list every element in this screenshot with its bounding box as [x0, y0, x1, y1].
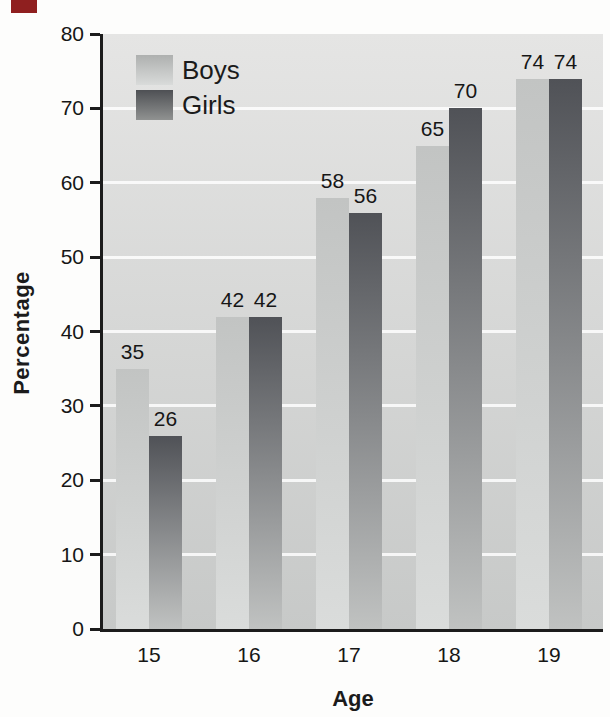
girls-bar-value-age-19: 74 — [545, 50, 586, 74]
legend-label-boys: Boys — [182, 55, 240, 86]
girls-bar-value-age-18: 70 — [445, 79, 486, 103]
girls-bar-value-age-16: 42 — [245, 288, 286, 312]
y-tick-label-40: 40 — [42, 320, 84, 344]
x-tick-label-19: 19 — [525, 643, 573, 667]
x-axis-title: Age — [332, 686, 374, 711]
girls-bar-age-18 — [449, 108, 482, 629]
y-tick-mark-50 — [90, 256, 100, 259]
y-tick-label-50: 50 — [42, 245, 84, 269]
x-tick-label-16: 16 — [225, 643, 273, 667]
y-tick-label-60: 60 — [42, 171, 84, 195]
y-tick-mark-10 — [90, 553, 100, 556]
legend-label-girls: Girls — [182, 90, 235, 121]
legend-row-girls: Girls — [136, 90, 240, 120]
y-tick-mark-60 — [90, 181, 100, 184]
legend-swatch-boys — [136, 55, 173, 85]
girls-bar-age-17 — [349, 213, 382, 630]
boys-bar-age-17 — [316, 198, 349, 629]
boys-bar-value-age-18: 65 — [412, 117, 453, 141]
y-tick-label-70: 70 — [42, 96, 84, 120]
boys-bar-age-19 — [516, 79, 549, 629]
y-tick-mark-20 — [90, 479, 100, 482]
girls-bar-age-19 — [549, 79, 582, 629]
legend-swatch-girls — [136, 90, 173, 120]
y-tick-label-0: 0 — [42, 617, 84, 641]
girls-bar-age-16 — [249, 317, 282, 629]
y-tick-label-20: 20 — [42, 468, 84, 492]
boys-bar-age-16 — [216, 317, 249, 629]
x-axis-title-wrap: Age — [330, 686, 376, 712]
x-tick-label-17: 17 — [325, 643, 373, 667]
x-tick-label-18: 18 — [425, 643, 473, 667]
y-axis-title: Percentage — [9, 271, 35, 395]
y-tick-mark-30 — [90, 404, 100, 407]
y-tick-mark-40 — [90, 330, 100, 333]
x-tick-label-15: 15 — [125, 643, 173, 667]
y-tick-mark-80 — [90, 33, 100, 36]
y-tick-label-10: 10 — [42, 543, 84, 567]
girls-bar-age-15 — [149, 436, 182, 629]
boys-bar-value-age-15: 35 — [112, 340, 153, 364]
red-marker — [11, 0, 37, 13]
girls-bar-value-age-17: 56 — [345, 184, 386, 208]
y-tick-mark-0 — [90, 628, 100, 631]
girls-bar-value-age-15: 26 — [145, 407, 186, 431]
plot-area: 35264242585665707474 Boys Girls — [100, 34, 603, 632]
bar-chart-figure: Percentage 35264242585665707474 Boys Gir… — [0, 0, 610, 717]
y-tick-mark-70 — [90, 107, 100, 110]
y-tick-label-30: 30 — [42, 394, 84, 418]
legend-row-boys: Boys — [136, 55, 240, 85]
y-tick-label-80: 80 — [42, 22, 84, 46]
legend: Boys Girls — [136, 55, 240, 125]
boys-bar-age-18 — [416, 146, 449, 629]
